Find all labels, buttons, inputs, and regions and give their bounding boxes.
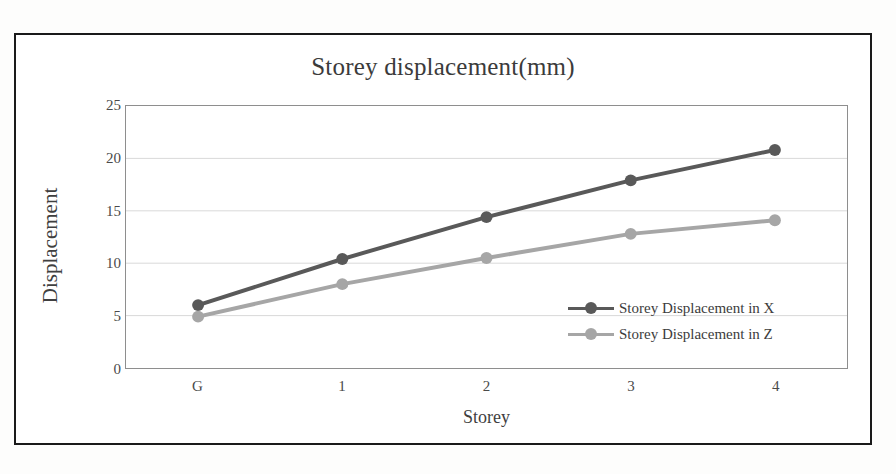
y-axis-tick-labels: 0510152025 (77, 105, 121, 369)
x-axis-title: Storey (125, 407, 848, 428)
data-point[interactable] (481, 252, 493, 264)
x-tick-label: 3 (627, 378, 635, 395)
y-tick-label: 5 (87, 308, 121, 325)
chart-title: Storey displacement(mm) (16, 53, 870, 81)
legend-marker-icon (568, 327, 614, 341)
data-point[interactable] (625, 174, 637, 186)
x-tick-label: 1 (338, 378, 346, 395)
data-point[interactable] (192, 299, 204, 311)
data-point[interactable] (769, 214, 781, 226)
data-point[interactable] (192, 311, 204, 323)
y-tick-label: 10 (87, 255, 121, 272)
y-axis-title: Displacement (38, 146, 63, 346)
data-point[interactable] (625, 228, 637, 240)
x-axis-tick-labels: G1234 (125, 378, 848, 402)
legend-marker-icon (568, 301, 614, 315)
x-tick-label: 2 (483, 378, 491, 395)
x-tick-label: G (192, 378, 203, 395)
x-tick-label: 4 (772, 378, 780, 395)
chart-legend: Storey Displacement in XStorey Displacem… (568, 295, 774, 347)
y-tick-label: 15 (87, 202, 121, 219)
data-point[interactable] (481, 211, 493, 223)
y-tick-label: 25 (87, 97, 121, 114)
figure-frame: Storey displacement(mm) Displacement 051… (14, 33, 872, 445)
y-tick-label: 20 (87, 149, 121, 166)
data-point[interactable] (769, 144, 781, 156)
legend-label: Storey Displacement in Z (619, 326, 773, 343)
legend-label: Storey Displacement in X (619, 300, 774, 317)
legend-entry[interactable]: Storey Displacement in Z (568, 321, 774, 347)
y-tick-label: 0 (87, 361, 121, 378)
data-point[interactable] (336, 278, 348, 290)
data-point[interactable] (336, 253, 348, 265)
legend-entry[interactable]: Storey Displacement in X (568, 295, 774, 321)
